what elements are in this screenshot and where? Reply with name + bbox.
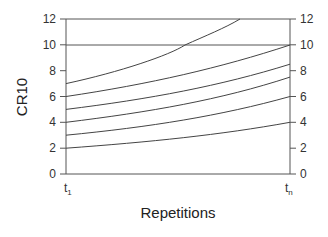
- tick-label: 2: [49, 141, 56, 155]
- tick-label: 6: [300, 90, 307, 104]
- x-tick-t1: t1: [64, 181, 72, 197]
- x-axis-title: Repetitions: [140, 204, 215, 221]
- tick-label: 4: [300, 115, 307, 129]
- x-tick-tn: tn: [285, 181, 293, 197]
- left-ticks: [60, 19, 66, 174]
- curve-start-7: [66, 19, 240, 84]
- tick-label: 6: [49, 90, 56, 104]
- tick-label: 0: [300, 167, 307, 181]
- tick-label: 12: [300, 12, 314, 26]
- tick-label: 12: [43, 12, 57, 26]
- tick-label: 2: [300, 141, 307, 155]
- tick-label: 10: [300, 38, 314, 52]
- left-tick-labels: 0 2 4 6 8 10 12: [43, 12, 57, 181]
- curve-start-4: [66, 77, 290, 122]
- tick-label: 10: [43, 38, 57, 52]
- curve-start-2: [66, 122, 290, 148]
- right-ticks: [290, 19, 296, 174]
- chart: 0 2 4 6 8 10 12 0 2 4 6 8 10 12 t1 tn Re…: [0, 0, 328, 237]
- tick-label: 0: [49, 167, 56, 181]
- curves: [66, 19, 290, 148]
- tick-label: 8: [300, 64, 307, 78]
- curve-start-3: [66, 97, 290, 136]
- tick-label: 4: [49, 115, 56, 129]
- tick-label: 8: [49, 64, 56, 78]
- curve-start-6: [66, 45, 290, 97]
- right-tick-labels: 0 2 4 6 8 10 12: [300, 12, 314, 181]
- y-axis-title: CR10: [13, 78, 30, 116]
